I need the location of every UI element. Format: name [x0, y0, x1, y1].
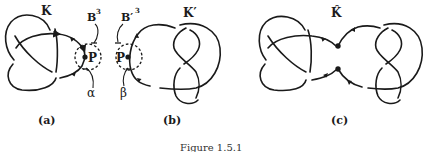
ball-label-b: B — [87, 11, 96, 24]
knot-label-k-hat: K̂ — [331, 5, 342, 20]
panel-a: K P B 3 α (a) — [6, 4, 101, 127]
knot-sum-diagram: K P B 3 α (a) P — [0, 0, 432, 152]
pointer-b-prime-3 — [117, 24, 123, 42]
panel-label-b: (b) — [163, 114, 181, 127]
right-figure-eight-component — [338, 24, 422, 104]
pointer-beta — [123, 68, 128, 86]
panel-label-a: (a) — [38, 114, 56, 127]
pointer-alpha — [86, 68, 93, 88]
left-trefoil-component — [259, 16, 336, 90]
point-p-dot — [125, 54, 130, 59]
panel-c: K̂ (c) — [259, 5, 422, 127]
figure-eight-knot-k-prime — [130, 24, 221, 104]
panel-b: P B′ 3 β K′ (b) — [115, 6, 220, 127]
pointer-b3 — [94, 24, 98, 43]
arc-label-alpha: α — [87, 86, 95, 100]
knot-label-k-prime: K′ — [183, 6, 197, 20]
arc-label-beta: β — [120, 86, 127, 100]
figure-caption: Figure 1.5.1 — [180, 142, 242, 152]
ball-label-sup: 3 — [135, 6, 140, 15]
panel-label-c: (c) — [331, 114, 348, 127]
point-label-p: P — [116, 51, 125, 65]
point-label-p: P — [88, 51, 97, 65]
trefoil-knot-k — [6, 15, 85, 90]
knot-label-k: K — [41, 4, 52, 18]
point-p-dot — [82, 54, 87, 59]
ball-label-sup: 3 — [96, 7, 101, 16]
ball-label-b-prime: B′ — [121, 11, 133, 24]
